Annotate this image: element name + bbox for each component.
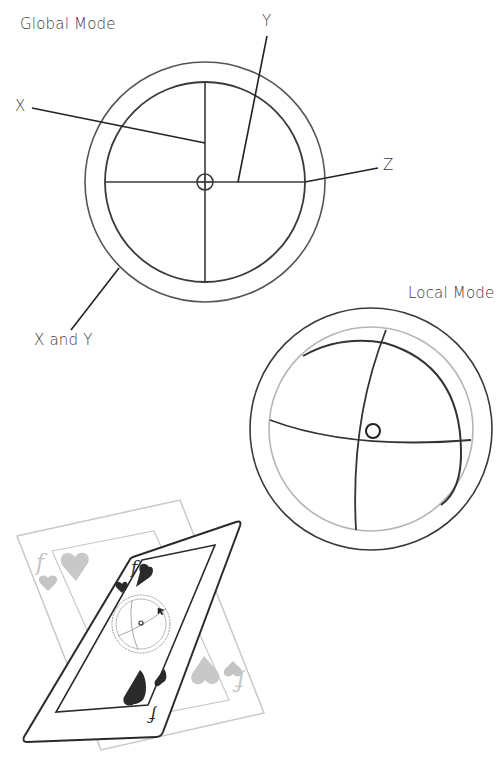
x-callout-line — [32, 108, 205, 143]
local-outer-ring[interactable] — [250, 308, 492, 550]
local-trackball — [250, 308, 492, 550]
trackball-diagram: f f f f — [0, 0, 503, 769]
x-and-y-callout-line — [71, 268, 119, 330]
background-card-heart-icon-large-top — [61, 553, 89, 581]
foreground-card-outline[interactable] — [23, 522, 240, 743]
background-card-heart-icon-large-bottom — [191, 656, 219, 684]
local-rotated-ring[interactable] — [303, 341, 461, 505]
background-card-rank-top: f — [34, 550, 48, 575]
y-callout-line — [238, 36, 267, 182]
global-trackball — [85, 62, 325, 302]
local-horizontal-arc[interactable] — [270, 420, 471, 443]
background-card-heart-icon-small-top — [39, 576, 57, 591]
z-callout-line — [305, 168, 378, 182]
foreground-card: f f — [23, 522, 240, 743]
local-vertical-arc[interactable] — [355, 330, 386, 530]
local-center-handle[interactable] — [366, 424, 380, 438]
